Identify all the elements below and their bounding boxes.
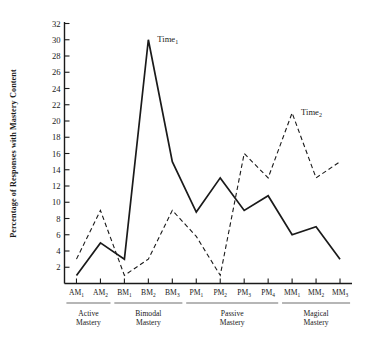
- x-tick-label: PM2: [213, 288, 227, 298]
- y-tick-label: 12: [52, 181, 61, 191]
- group-label-line2: Mastery: [220, 318, 245, 327]
- y-tick-label: 6: [56, 230, 61, 240]
- y-tick-label: 22: [52, 100, 61, 110]
- series-annotation-time1: Time1: [157, 34, 178, 45]
- x-tick-label: MM3: [332, 288, 349, 298]
- x-tick-label: AM1: [69, 288, 84, 298]
- series-line-time1: [76, 40, 340, 276]
- y-tick-label: 10: [52, 197, 61, 207]
- series-annotation-time2: Time2: [301, 107, 322, 118]
- group-label-line1: Bimodal: [135, 309, 161, 318]
- y-tick-label: 30: [52, 35, 61, 45]
- y-tick-label: 28: [52, 51, 61, 61]
- x-tick-label: BM3: [165, 288, 180, 298]
- x-tick-label: MM2: [308, 288, 325, 298]
- x-tick-label: BM1: [117, 288, 132, 298]
- y-tick-label: 20: [52, 116, 61, 126]
- y-tick-label: 8: [56, 214, 60, 224]
- group-label-line2: Mastery: [76, 318, 101, 327]
- x-tick-label: PM1: [189, 288, 203, 298]
- x-axis-ticks: AM1AM2BM1BM2BM3PM1PM2PM3PM4MM1MM2MM3: [69, 279, 348, 298]
- group-label-line2: Mastery: [136, 318, 161, 327]
- y-tick-label: 14: [52, 165, 61, 175]
- group-label-line1: Magical: [304, 309, 329, 318]
- x-tick-label: PM3: [237, 288, 251, 298]
- y-tick-label: 26: [52, 67, 61, 77]
- x-tick-label: PM4: [261, 288, 275, 298]
- group-label-line2: Mastery: [304, 318, 329, 327]
- x-tick-label: BM2: [141, 288, 156, 298]
- x-tick-label: MM1: [284, 288, 301, 298]
- y-tick-label: 18: [52, 132, 61, 142]
- chart-container: 2468101214161820222426283032Percentage o…: [0, 0, 365, 345]
- y-tick-label: 16: [52, 149, 61, 159]
- mastery-content-line-chart: 2468101214161820222426283032Percentage o…: [0, 0, 365, 345]
- group-label-line1: Active: [78, 309, 99, 318]
- y-tick-label: 24: [52, 84, 61, 94]
- y-tick-label: 32: [52, 19, 61, 29]
- group-label-line1: Passive: [221, 309, 244, 318]
- y-tick-label: 2: [56, 262, 60, 272]
- group-labels: ActiveMasteryBimodalMasteryPassiveMaster…: [66, 303, 350, 327]
- y-axis-title: Percentage of Responses with Mastery Con…: [9, 69, 18, 238]
- y-tick-label: 4: [56, 246, 61, 256]
- y-axis-ticks: 2468101214161820222426283032: [52, 19, 70, 273]
- x-tick-label: AM2: [93, 288, 108, 298]
